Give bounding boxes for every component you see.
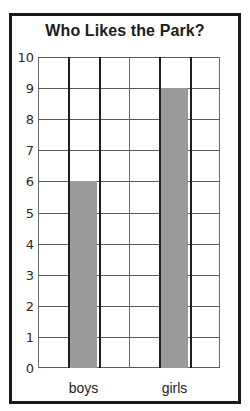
y-tick-label-8: 8 xyxy=(6,113,34,126)
worksheet-page: Who Likes the Park? 012345678910 boysgir… xyxy=(0,0,250,411)
gridline-x-3 xyxy=(129,57,130,368)
gridline-x-2 xyxy=(99,57,101,368)
y-tick-label-4: 4 xyxy=(6,238,34,251)
y-tick-label-6: 6 xyxy=(6,175,34,188)
chart-title: Who Likes the Park? xyxy=(9,22,241,40)
gridline-x-5 xyxy=(190,57,192,368)
y-tick-label-10: 10 xyxy=(6,51,34,64)
y-tick-label-5: 5 xyxy=(6,207,34,220)
plot-area xyxy=(38,57,220,368)
x-label-girls: girls xyxy=(135,380,215,396)
bar-boys xyxy=(70,181,97,368)
y-tick-label-7: 7 xyxy=(6,144,34,157)
y-tick-label-9: 9 xyxy=(6,82,34,95)
y-tick-label-0: 0 xyxy=(6,362,34,375)
y-tick-label-2: 2 xyxy=(6,300,34,313)
y-tick-label-3: 3 xyxy=(6,269,34,282)
x-label-boys: boys xyxy=(44,380,124,396)
y-tick-label-1: 1 xyxy=(6,331,34,344)
bar-girls xyxy=(161,88,188,368)
